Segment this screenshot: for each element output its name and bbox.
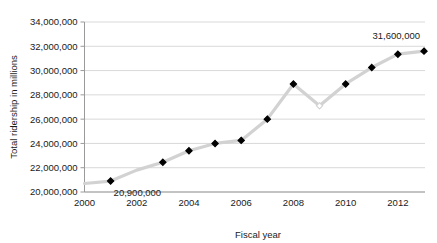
- y-axis-ticks: [81, 22, 85, 192]
- y-axis-tick-label: 22,000,000: [30, 162, 78, 173]
- y-axis-tick-labels: 20,000,00022,000,00024,000,00026,000,000…: [30, 16, 78, 197]
- x-axis-tick-label: 2010: [335, 197, 356, 208]
- y-axis-tick-label: 32,000,000: [30, 41, 78, 52]
- x-axis-tick-label: 2000: [74, 197, 95, 208]
- x-axis-title: Fiscal year: [235, 229, 281, 240]
- y-axis-title: Total ridership in millions: [8, 55, 19, 159]
- x-axis-tick-label: 2008: [283, 197, 304, 208]
- y-axis-tick-label: 24,000,000: [30, 138, 78, 149]
- x-axis-tick-label: 2002: [126, 197, 147, 208]
- chart-container: 20,000,00022,000,00024,000,00026,000,000…: [0, 0, 437, 243]
- y-axis-tick-label: 28,000,000: [30, 89, 78, 100]
- x-axis-tick-label: 2012: [387, 197, 408, 208]
- data-point-labels: 20,900,00031,600,000: [114, 30, 420, 198]
- data-point-marker: [421, 48, 427, 54]
- x-axis-tick-label: 2004: [178, 197, 199, 208]
- y-axis-tick-label: 20,000,000: [30, 186, 78, 197]
- y-axis-tick-label: 30,000,000: [30, 65, 78, 76]
- y-axis-tick-label: 26,000,000: [30, 114, 78, 125]
- gridlines: [85, 22, 426, 192]
- first-point-label: 20,900,000: [114, 187, 162, 198]
- last-point-label: 31,600,000: [372, 30, 420, 41]
- axis-lines: [85, 22, 426, 192]
- y-axis-tick-label: 34,000,000: [30, 16, 78, 27]
- x-axis-tick-labels: 2000200220042006200820102012: [74, 197, 409, 208]
- x-axis-tick-label: 2006: [231, 197, 252, 208]
- line-chart: 20,000,00022,000,00024,000,00026,000,000…: [0, 0, 437, 243]
